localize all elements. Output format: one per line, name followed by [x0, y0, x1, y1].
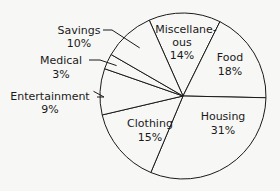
pie-chart: Miscellane- ous 14% Food 18% Housing 31%… — [0, 0, 280, 191]
label-housing-value: 31% — [211, 124, 235, 137]
label-savings-name: Savings — [58, 24, 101, 37]
label-miscellaneous-value: 14% — [170, 49, 194, 62]
label-housing-name: Housing — [201, 110, 246, 123]
label-medical-value: 3% — [52, 68, 69, 81]
label-food-name: Food — [217, 51, 243, 64]
label-entertainment-name: Entertainment — [10, 90, 90, 103]
label-food-value: 18% — [218, 65, 242, 78]
label-entertainment-value: 9% — [41, 103, 58, 116]
label-miscellaneous-name2: ous — [172, 36, 192, 49]
label-clothing-value: 15% — [138, 131, 162, 144]
label-medical-name: Medical — [40, 54, 82, 67]
label-miscellaneous-name: Miscellane- — [155, 23, 217, 36]
label-clothing-name: Clothing — [127, 117, 173, 130]
label-savings-value: 10% — [67, 37, 91, 50]
